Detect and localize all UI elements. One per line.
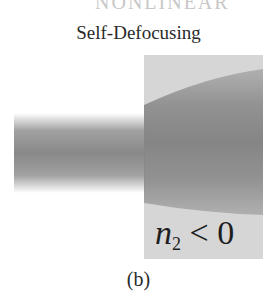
clipped-heading-fragment: NONLINEAR <box>95 0 230 14</box>
n-subscript: 2 <box>172 234 181 254</box>
relation: < 0 <box>190 214 235 251</box>
incident-beam <box>14 113 145 193</box>
n-variable: n <box>155 214 172 251</box>
diagram-title: Self-Defocusing <box>0 22 277 44</box>
subfigure-caption: (b) <box>0 268 277 291</box>
n2-label: n2 < 0 <box>155 214 234 255</box>
